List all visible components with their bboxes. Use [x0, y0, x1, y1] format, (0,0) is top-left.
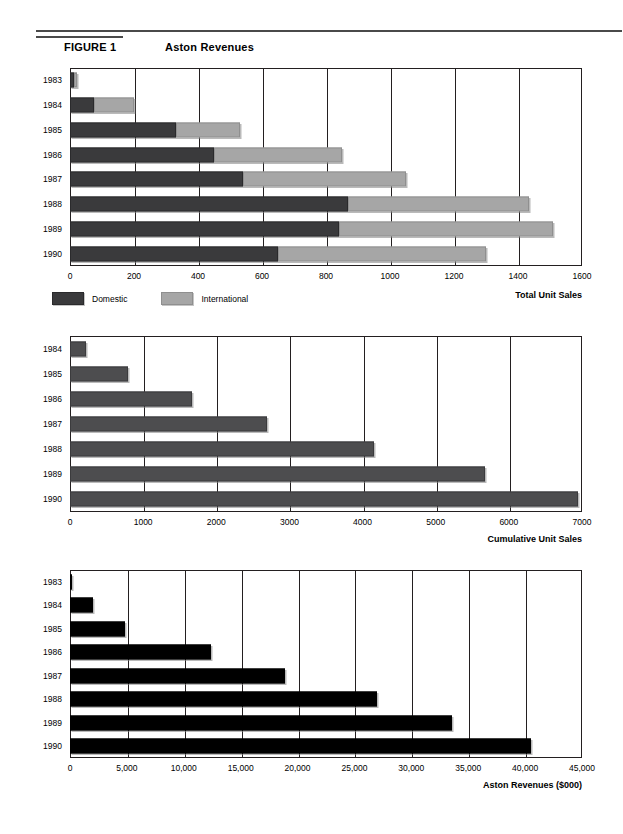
y-axis-label: 1986 [43, 647, 62, 657]
chart-legend: Domestic International [52, 292, 282, 305]
y-axis-label: 1984 [43, 600, 62, 610]
bar [70, 645, 211, 660]
bar [70, 739, 531, 754]
bar-segment [74, 73, 77, 88]
legend-swatch-domestic [52, 292, 84, 305]
y-axis-label: 1989 [43, 469, 62, 479]
bar [70, 574, 72, 589]
x-tick-label: 800 [319, 271, 333, 281]
legend-label-domestic: Domestic [92, 294, 127, 304]
bar-segment [94, 98, 134, 113]
bar [70, 98, 134, 113]
bar-segment [70, 172, 243, 187]
legend-item-international: International [161, 292, 248, 305]
x-tick-label: 30,000 [398, 763, 424, 773]
y-axis-label: 1983 [43, 577, 62, 587]
bar [70, 467, 485, 482]
bar-segment [70, 197, 348, 212]
legend-swatch-international [161, 292, 193, 305]
y-axis-label: 1987 [43, 671, 62, 681]
y-axis-label: 1984 [43, 344, 62, 354]
bar-segment [278, 246, 486, 261]
bar-segment [70, 391, 192, 406]
x-tick-label: 0 [68, 517, 73, 527]
y-axis-labels-chart1: 19831984198519861987198819891990 [32, 68, 66, 266]
y-axis-label: 1990 [43, 741, 62, 751]
bar-segment [70, 246, 278, 261]
y-axis-label: 1990 [43, 494, 62, 504]
bar-segment [70, 221, 339, 236]
bar [70, 73, 77, 88]
bar-segment [70, 492, 578, 507]
x-tick-label: 0 [68, 763, 73, 773]
bar [70, 492, 578, 507]
x-tick-label: 1200 [445, 271, 464, 281]
y-axis-label: 1985 [43, 624, 62, 634]
y-axis-label: 1988 [43, 199, 62, 209]
x-axis-title-chart2: Cumulative Unit Sales [487, 534, 582, 544]
x-tick-label: 40,000 [512, 763, 538, 773]
x-tick-label: 400 [191, 271, 205, 281]
bar [70, 122, 240, 137]
bar [70, 197, 529, 212]
header-rule-short [36, 36, 123, 38]
legend-item-domestic: Domestic [52, 292, 127, 305]
bar-segment [339, 221, 553, 236]
y-axis-label: 1984 [43, 100, 62, 110]
bar [70, 221, 553, 236]
y-axis-label: 1989 [43, 224, 62, 234]
bar-segment [70, 692, 377, 707]
bar-segment [70, 739, 531, 754]
bar [70, 391, 192, 406]
bar-segment [70, 366, 128, 381]
y-axis-label: 1987 [43, 419, 62, 429]
x-axis-title-chart3: Aston Revenues ($000) [483, 780, 582, 790]
bar-segment [70, 98, 94, 113]
header-rule [36, 30, 622, 32]
x-tick-label: 1000 [381, 271, 400, 281]
bar-segment [243, 172, 406, 187]
bar-segment [70, 341, 86, 356]
y-axis-labels-chart2: 1984198519861987198819891990 [32, 336, 66, 512]
bar-segment [70, 442, 374, 457]
y-axis-label: 1988 [43, 444, 62, 454]
bar-segment [70, 621, 125, 636]
bar [70, 668, 285, 683]
bar [70, 417, 267, 432]
chart-aston-revenues: 19831984198519861987198819891990 05,0001… [70, 570, 582, 758]
x-tick-label: 1000 [134, 517, 153, 527]
bar-segment [70, 122, 176, 137]
bar [70, 246, 486, 261]
y-axis-label: 1985 [43, 125, 62, 135]
legend-label-international: International [201, 294, 248, 304]
bar-segment [70, 147, 214, 162]
chart-cumulative-unit-sales: 1984198519861987198819891990 01000200030… [70, 336, 582, 512]
y-axis-label: 1989 [43, 718, 62, 728]
x-tick-label: 5,000 [116, 763, 137, 773]
page-title: Aston Revenues [165, 41, 254, 53]
bar [70, 621, 125, 636]
x-tick-label: 200 [127, 271, 141, 281]
bar [70, 147, 342, 162]
bar-segment [70, 467, 485, 482]
bar-segment [214, 147, 342, 162]
y-axis-label: 1983 [43, 75, 62, 85]
x-tick-label: 4000 [353, 517, 372, 527]
x-tick-label: 6000 [499, 517, 518, 527]
x-tick-label: 0 [68, 271, 73, 281]
bar-segment [70, 715, 452, 730]
bars-chart3 [70, 570, 582, 758]
bars-chart1 [70, 68, 582, 266]
y-axis-label: 1985 [43, 369, 62, 379]
y-axis-label: 1986 [43, 394, 62, 404]
bar [70, 366, 128, 381]
bar-segment [176, 122, 240, 137]
x-tick-label: 2000 [207, 517, 226, 527]
bar [70, 341, 86, 356]
bar-segment [70, 417, 267, 432]
bar [70, 442, 374, 457]
bar [70, 598, 93, 613]
x-tick-label: 5000 [426, 517, 445, 527]
x-tick-label: 1400 [509, 271, 528, 281]
bar-segment [70, 598, 93, 613]
